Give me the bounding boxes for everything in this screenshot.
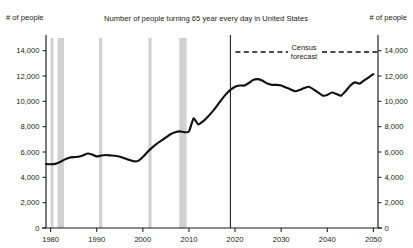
left-axis: 02,0004,0006,0008,00010,00012,00014,000 [16, 35, 46, 233]
x-tick-label: 2000 [134, 235, 151, 244]
right-tick-label: 10,000 [385, 97, 408, 106]
recession-bands-group [51, 38, 187, 228]
left-tick-label: 8,000 [20, 122, 39, 131]
chart-title: Number of people turning 65 year every d… [104, 14, 308, 23]
x-axis: 19801990200020102020203020402050 [42, 228, 382, 244]
recession-band [51, 38, 54, 228]
x-tick-label: 2050 [365, 235, 382, 244]
chart-container: Number of people turning 65 year every d… [0, 0, 413, 248]
right-tick-label: 0 [385, 224, 389, 233]
line-chart: Number of people turning 65 year every d… [0, 0, 413, 248]
right-tick-label: 6,000 [385, 148, 404, 157]
data-series-line [46, 74, 373, 164]
legend-label-line1: Census [291, 43, 316, 52]
right-tick-label: 14,000 [385, 46, 408, 55]
left-tick-label: 14,000 [16, 46, 39, 55]
right-tick-label: 8,000 [385, 122, 404, 131]
right-tick-label: 12,000 [385, 72, 408, 81]
left-tick-label: 10,000 [16, 97, 39, 106]
left-tick-label: 0 [35, 224, 39, 233]
legend-label-line2: forecast [291, 52, 317, 61]
recession-band [99, 38, 102, 228]
x-tick-label: 1980 [42, 235, 59, 244]
left-tick-label: 2,000 [20, 198, 39, 207]
legend: Census forecast [235, 43, 378, 61]
x-tick-label: 2020 [227, 235, 244, 244]
left-tick-label: 4,000 [20, 173, 39, 182]
x-tick-label: 2010 [180, 235, 197, 244]
left-axis-title: # of people [6, 13, 44, 22]
right-axis-title: # of people [369, 13, 407, 22]
x-tick-label: 1990 [88, 235, 105, 244]
recession-band [58, 38, 64, 228]
recession-band [148, 38, 151, 228]
right-tick-label: 4,000 [385, 173, 404, 182]
right-axis: 02,0004,0006,0008,00010,00012,00014,000 [378, 35, 408, 233]
x-tick-label: 2030 [273, 235, 290, 244]
right-tick-label: 2,000 [385, 198, 404, 207]
x-tick-label: 2040 [319, 235, 336, 244]
left-tick-label: 6,000 [20, 148, 39, 157]
left-tick-label: 12,000 [16, 72, 39, 81]
